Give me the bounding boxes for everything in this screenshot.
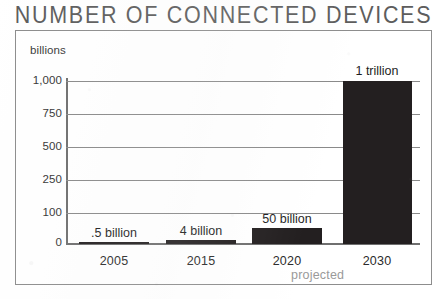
bar-2030 bbox=[343, 81, 412, 244]
y-tick-label-750: 750 bbox=[4, 107, 62, 119]
y-tick-label-500: 500 bbox=[4, 140, 62, 152]
x-tick-label-2020: 2020 bbox=[247, 254, 327, 268]
y-tick-label-0: 0 bbox=[4, 236, 62, 248]
x-tick-label-2015: 2015 bbox=[161, 254, 241, 268]
projected-annotation: projected bbox=[291, 268, 344, 282]
bar-2020 bbox=[252, 228, 322, 244]
y-tick-label-1000: 1,000 bbox=[4, 74, 62, 86]
y-tick-label-100: 100 bbox=[4, 206, 62, 218]
y-tick-100: 100 bbox=[0, 206, 62, 220]
bar-label-2020: 50 billion bbox=[247, 212, 327, 226]
plot-area: billions 1,000 750 500 250 100 0 .5 bill… bbox=[0, 0, 447, 299]
y-tick-750: 750 bbox=[0, 107, 62, 121]
y-tick-0: 0 bbox=[0, 236, 62, 250]
y-axis-line bbox=[66, 78, 68, 244]
bar-2015 bbox=[166, 240, 236, 244]
y-tick-label-250: 250 bbox=[4, 173, 62, 185]
y-tick-500: 500 bbox=[0, 140, 62, 154]
bar-label-2005: .5 billion bbox=[74, 226, 154, 240]
bar-label-2015: 4 billion bbox=[161, 224, 241, 238]
y-tick-1000: 1,000 bbox=[0, 74, 62, 88]
x-tick-label-2030: 2030 bbox=[337, 254, 417, 268]
y-axis-unit-label: billions bbox=[30, 44, 66, 56]
x-tick-label-2005: 2005 bbox=[74, 254, 154, 268]
bar-label-2030: 1 trillion bbox=[337, 64, 417, 78]
y-tick-250: 250 bbox=[0, 173, 62, 187]
bar-2005 bbox=[79, 242, 149, 244]
